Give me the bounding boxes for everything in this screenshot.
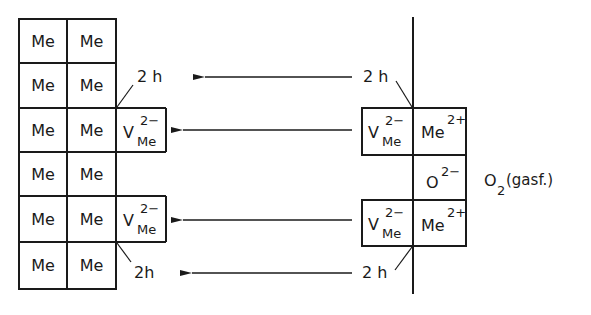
right-hole-label-bottom: 2 h [362,265,387,281]
me-cell: Me [19,63,67,108]
left-hole-label-top: 2 h [137,69,162,85]
me-cell: Me [67,19,116,63]
me-cell: Me [19,242,67,289]
me-cell: Me [67,152,116,196]
me-cell: Me [67,242,116,289]
me-cell: Me [19,19,67,63]
me-cell: Me [19,152,67,196]
left-hole-label-bottom: 2h [134,265,154,281]
me-cell: Me [19,196,67,242]
me-cell: Me [67,196,116,242]
me-cell: Me [67,108,116,152]
me-cell: Me [67,63,116,108]
right-hole-label-top: 2 h [363,69,388,85]
defect-diagram: Me Me Me Me Me Me Me Me Me Me Me Me V 2−… [0,0,591,315]
me-cell: Me [19,108,67,152]
